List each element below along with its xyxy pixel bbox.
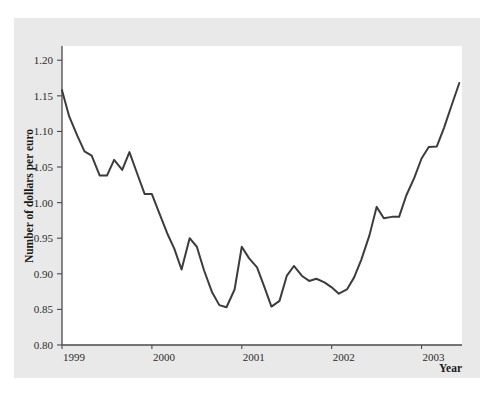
y-tick-label: 1.00 [34,197,54,209]
y-tick-label: 0.95 [34,232,54,244]
y-tick-label: 0.90 [34,268,54,280]
y-tick-label: 0.80 [34,339,54,351]
x-axis-title: Year [439,362,462,374]
y-tick-label: 1.20 [34,54,54,66]
y-axis-tick-marks [57,60,62,345]
x-tick-label: 2000 [153,351,176,363]
x-tick-label: 1999 [63,351,86,363]
y-tick-label: 0.85 [34,303,54,315]
plot-area-background [62,46,462,345]
y-tick-label: 1.15 [34,90,54,102]
y-tick-label: 1.10 [34,125,54,137]
y-axis-tick-labels: 0.800.850.900.951.001.051.101.151.20 [34,54,54,351]
figure-root: 0.800.850.900.951.001.051.101.151.20 199… [0,0,494,400]
x-tick-label: 2002 [333,351,355,363]
x-axis-tick-labels: 19992000200120022003 [63,351,445,363]
line-chart: 0.800.850.900.951.001.051.101.151.20 199… [0,0,494,400]
y-tick-label: 1.05 [34,161,54,173]
y-axis-title: Number of dollars per euro [23,129,36,263]
x-tick-label: 2001 [243,351,265,363]
